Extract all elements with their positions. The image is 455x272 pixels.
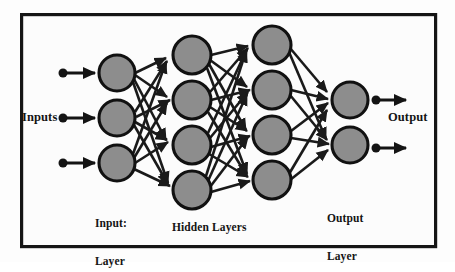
hidden-node (173, 171, 211, 209)
input-node (99, 100, 135, 136)
hidden-node (173, 126, 211, 164)
hidden-node (173, 81, 211, 119)
output-layer-label: Output Layer (327, 186, 363, 272)
input-layer-label-line2: Layer (95, 255, 127, 268)
output-layer-label-line1: Output (327, 212, 363, 225)
input-layer-nodes (99, 55, 135, 181)
hidden-node (173, 36, 211, 74)
hidden-node (253, 116, 291, 154)
output-node (332, 127, 368, 163)
input-node (99, 145, 135, 181)
hidden-layers-label: Hidden Layers (172, 221, 246, 234)
output-node (332, 82, 368, 118)
inputs-label: Inputs (22, 110, 57, 124)
output-label: Output (388, 110, 428, 124)
hidden-node (253, 26, 291, 64)
input-layer-label: Input: Layer (95, 191, 127, 272)
hidden-node (253, 71, 291, 109)
input-node (99, 55, 135, 91)
hidden-node (253, 161, 291, 199)
output-layer-label-line2: Layer (327, 250, 363, 263)
input-layer-label-line1: Input: (95, 217, 127, 230)
